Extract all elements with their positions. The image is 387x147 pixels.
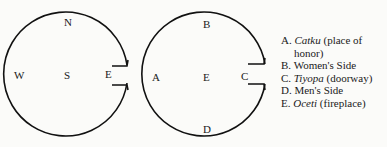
label-a: A xyxy=(152,71,160,83)
legend: A. Catku (place of honor) B. Women's Sid… xyxy=(281,34,372,109)
label-east: E xyxy=(105,68,112,80)
label-c: C xyxy=(241,70,248,82)
legend-item-d: D. Men's Side xyxy=(281,84,372,97)
label-d: D xyxy=(203,123,211,135)
label-north: N xyxy=(64,16,72,28)
label-west: W xyxy=(14,69,25,81)
label-b: B xyxy=(203,18,210,30)
legend-item-a-cont: honor) xyxy=(281,47,372,60)
label-e: E xyxy=(203,71,210,83)
legend-item-c: C. Tiyopa (doorway) xyxy=(281,72,372,85)
legend-item-a: A. Catku (place of xyxy=(281,34,372,47)
label-center-s: S xyxy=(64,69,70,81)
legend-item-e: E. Oceti (fireplace) xyxy=(281,97,372,110)
legend-item-b: B. Women's Side xyxy=(281,59,372,72)
